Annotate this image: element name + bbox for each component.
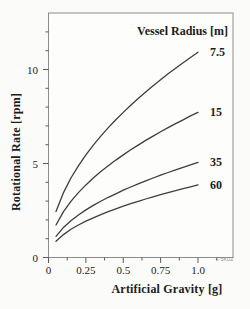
y-axis-title: Rotational Rate [rpm] [9,93,24,211]
plot-frame [49,13,234,258]
copyright-watermark: © 5KUZ [215,257,233,262]
x-tick-label: 0.25 [76,264,95,276]
x-axis-title: Artificial Gravity [g] [111,282,222,297]
x-tick-label: 0 [46,264,52,276]
curve-label-35: 35 [210,155,222,170]
artificial-gravity-chart: Rotational Rate [rpm] Artificial Gravity… [0,0,250,309]
y-tick-label: 0 [33,252,39,264]
curve-label-60: 60 [210,177,222,192]
x-tick-label: 0.5 [116,264,130,276]
curve-label-7.5: 7.5 [210,45,225,60]
y-tick-label: 10 [27,64,38,76]
y-tick-label: 5 [33,158,39,170]
x-tick-label: 1.0 [191,264,205,276]
curve-label-15: 15 [210,105,222,120]
legend-title: Vessel Radius [m] [137,24,228,39]
x-tick-label: 0.75 [151,264,170,276]
